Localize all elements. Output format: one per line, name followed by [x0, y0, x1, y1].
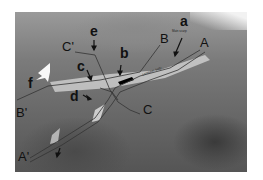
- label-A: A: [200, 36, 209, 49]
- label-C-prime: C': [62, 40, 74, 53]
- label-B: B: [160, 32, 169, 45]
- label-C: C: [143, 103, 152, 116]
- label-e: e: [90, 25, 98, 38]
- label-B-prime: B': [16, 106, 27, 119]
- label-c: c: [77, 60, 85, 73]
- label-A-prime: A': [18, 150, 29, 163]
- annotation-overlay: [0, 0, 263, 180]
- label-d: d: [70, 90, 79, 103]
- label-f: f: [28, 77, 33, 90]
- label-a: a: [180, 15, 188, 28]
- main-scarp-text: Main scarp: [172, 30, 187, 33]
- label-b: b: [120, 47, 129, 60]
